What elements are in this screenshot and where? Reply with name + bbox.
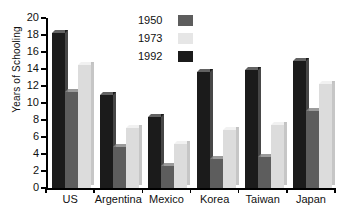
bar-front-face (126, 128, 139, 188)
bar-chart: Years of Schooling 02468101214161820 USA… (0, 0, 349, 220)
y-tick-label: 14 (9, 63, 39, 74)
legend-label: 1992 (138, 50, 170, 62)
bar-front-face (223, 130, 236, 188)
bar-front-face (197, 72, 210, 188)
legend-swatch (178, 33, 193, 44)
bar-front-face (161, 166, 174, 188)
bar (78, 65, 91, 188)
legend-swatch (178, 15, 193, 26)
bar (319, 84, 332, 188)
bar-group (46, 18, 94, 188)
bar-front-face (210, 159, 223, 188)
bar-front-face (65, 92, 78, 188)
bar-front-face (52, 33, 65, 188)
y-tick-label: 4 (9, 148, 39, 159)
x-tick-label-korea: Korea (191, 194, 239, 205)
x-tick-label-japan: Japan (287, 194, 335, 205)
x-tick-label-us: US (46, 194, 94, 205)
bar (100, 95, 113, 188)
x-tick-mark (334, 188, 336, 193)
bar (52, 33, 65, 188)
bar (306, 111, 319, 188)
y-tick-label: 10 (9, 97, 39, 108)
bar-side-face (332, 81, 335, 185)
y-tick-label: 2 (9, 165, 39, 176)
bar (210, 159, 223, 188)
x-tick-mark (45, 188, 47, 193)
bar-front-face (100, 95, 113, 188)
bar-group (287, 18, 335, 188)
bar-front-face (113, 147, 126, 188)
bar-front-face (306, 111, 319, 188)
y-tick-label: 0 (9, 182, 39, 193)
bar (271, 125, 284, 188)
legend-item-1992: 1992 (138, 48, 193, 64)
bar (161, 166, 174, 188)
x-tick-mark (238, 188, 240, 193)
bar-front-face (319, 84, 332, 188)
bar-front-face (293, 61, 306, 188)
bar (174, 144, 187, 188)
bar (126, 128, 139, 188)
x-tick-mark (190, 188, 192, 193)
bar (148, 117, 161, 188)
legend-label: 1950 (138, 14, 170, 26)
y-tick-label: 6 (9, 131, 39, 142)
bar (223, 130, 236, 188)
y-tick-label: 8 (9, 114, 39, 125)
x-tick-label-mexico: Mexico (142, 194, 190, 205)
legend-label: 1973 (138, 32, 170, 44)
bar-group (191, 18, 239, 188)
bar-group (239, 18, 287, 188)
legend-item-1950: 1950 (138, 12, 193, 28)
y-tick-label: 20 (9, 12, 39, 23)
bar (293, 61, 306, 188)
bar (65, 92, 78, 188)
bar (197, 72, 210, 188)
y-tick-label: 16 (9, 46, 39, 57)
bar-front-face (78, 65, 91, 188)
x-tick-label-taiwan: Taiwan (239, 194, 287, 205)
bar-front-face (245, 70, 258, 188)
legend-swatch (178, 51, 193, 62)
bar-front-face (148, 117, 161, 188)
bar-front-face (174, 144, 187, 188)
x-tick-mark (286, 188, 288, 193)
y-tick-label: 18 (9, 29, 39, 40)
bar-front-face (258, 157, 271, 188)
bar-group (94, 18, 142, 188)
bar (245, 70, 258, 188)
bar-front-face (271, 125, 284, 188)
bar (113, 147, 126, 188)
legend-item-1973: 1973 (138, 30, 193, 46)
legend: 195019731992 (138, 12, 193, 66)
y-tick-label: 12 (9, 80, 39, 91)
bar (258, 157, 271, 188)
x-tick-label-argentina: Argentina (94, 194, 142, 205)
